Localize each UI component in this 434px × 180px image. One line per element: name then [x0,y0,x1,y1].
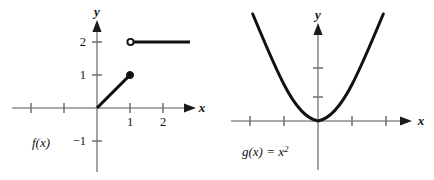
y-axis-arrowhead [313,23,322,35]
function-label-g-main: g(x) = x [242,144,284,159]
function-label-g-exponent: 2 [284,144,289,154]
chart-f-of-x: 1 2 2 1 −1 x y f(x) [0,0,217,180]
panel-parabola: x y g(x) = x2 [217,0,434,180]
y-axis-arrowhead [92,20,101,32]
x-axis-arrowhead [400,116,412,125]
panel-piecewise-function: 1 2 2 1 −1 x y f(x) [0,0,217,180]
x-axis-label: x [198,100,206,115]
function-label-g: g(x) = x2 [242,144,289,159]
open-dot-marker [127,39,133,45]
x-tick-label-2: 2 [160,115,166,129]
segment-identity [97,75,130,108]
y-tick-label-2: 2 [80,35,86,49]
y-axis-label: y [92,4,100,19]
chart-g-of-x: x y g(x) = x2 [217,0,434,180]
y-tick-label-minus-1: −1 [73,134,86,148]
function-label-f: f(x) [32,135,50,150]
y-tick-label-1: 1 [80,68,86,82]
figure-root: 1 2 2 1 −1 x y f(x) [0,0,434,180]
y-axis-label: y [313,7,321,22]
x-axis-label: x [417,113,425,128]
closed-dot-marker [127,72,134,79]
x-axis-arrowhead [184,103,196,112]
x-tick-label-1: 1 [127,115,133,129]
